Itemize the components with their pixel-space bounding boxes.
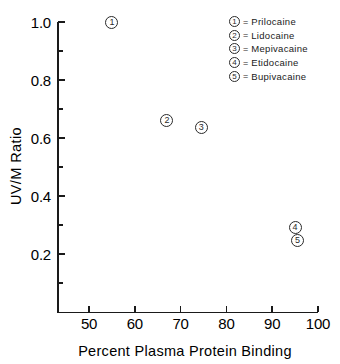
y-axis-tick-label: 0.2 [11, 247, 51, 262]
x-axis-tick-label: 70 [161, 316, 201, 332]
legend-label: Mepivacaine [251, 43, 308, 54]
legend: 1=Prilocaine2=Lidocaine3=Mepivacaine4=Et… [229, 15, 337, 83]
data-point-marker-3: 3 [195, 121, 208, 134]
legend-marker-1: 1 [229, 16, 240, 27]
legend-marker-2: 2 [229, 30, 240, 41]
y-axis-tick-label-wrap: 0.8 [6, 73, 51, 88]
legend-label: Lidocaine [251, 30, 294, 41]
legend-separator: = [243, 71, 248, 81]
x-axis-tick-label: 80 [206, 316, 246, 332]
x-axis-tick [180, 306, 182, 312]
legend-label: Bupivacaine [251, 71, 306, 82]
y-axis-tick-major [58, 21, 65, 23]
legend-separator: = [243, 58, 248, 68]
x-axis-tick [317, 306, 319, 312]
data-point-marker-1: 1 [105, 16, 118, 29]
y-axis-tick-label: 1.0 [11, 15, 51, 30]
x-axis-tick [226, 306, 228, 312]
legend-row: 2=Lidocaine [229, 29, 337, 43]
x-axis-tick [134, 306, 136, 312]
y-axis-tick-major [58, 137, 65, 139]
x-axis-line [57, 312, 318, 314]
y-axis-tick-major [58, 195, 65, 197]
legend-marker-5: 5 [229, 71, 240, 82]
y-axis-tick-major [58, 253, 65, 255]
x-axis-tick [88, 306, 90, 312]
y-axis-tick-minor [58, 50, 63, 52]
legend-marker-3: 3 [229, 43, 240, 54]
legend-label: Etidocaine [251, 57, 298, 68]
y-axis-tick-label: 0.8 [11, 73, 51, 88]
y-axis-tick-major [58, 79, 65, 81]
legend-row: 4=Etidocaine [229, 56, 337, 70]
scatter-plot-figure: 1.00.80.60.40.2 5060708090100 12345 UV/M… [0, 0, 340, 364]
legend-row: 5=Bupivacaine [229, 69, 337, 83]
x-axis-title: Percent Plasma Protein Binding [40, 343, 330, 359]
y-axis-title: UV/M Ratio [8, 106, 24, 226]
legend-separator: = [243, 44, 248, 54]
legend-separator: = [243, 17, 248, 27]
legend-label: Prilocaine [251, 16, 296, 27]
y-axis-tick-minor [58, 166, 63, 168]
y-axis-tick-minor [58, 282, 63, 284]
x-axis-tick-label: 100 [298, 316, 338, 332]
x-axis-tick-label: 90 [252, 316, 292, 332]
legend-row: 1=Prilocaine [229, 15, 337, 29]
legend-row: 3=Mepivacaine [229, 42, 337, 56]
y-axis-tick-minor [58, 108, 63, 110]
data-point-marker-2: 2 [160, 114, 173, 127]
x-axis-tick-label: 50 [69, 316, 109, 332]
x-axis-tick-label: 60 [115, 316, 155, 332]
data-point-marker-4: 4 [289, 221, 302, 234]
legend-marker-4: 4 [229, 57, 240, 68]
y-axis-tick-label-wrap: 0.2 [6, 247, 51, 262]
legend-separator: = [243, 30, 248, 40]
data-point-marker-5: 5 [291, 234, 304, 247]
y-axis-tick-label-wrap: 1.0 [6, 15, 51, 30]
x-axis-tick [271, 306, 273, 312]
y-axis-tick-minor [58, 224, 63, 226]
